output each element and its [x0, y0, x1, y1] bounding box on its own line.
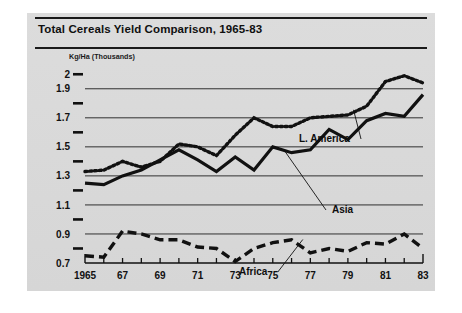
- title-rule-top: [35, 17, 427, 19]
- x-axis: [85, 254, 423, 263]
- y-axis-label-0.9: 0.9: [56, 229, 70, 240]
- y-axis-labels: 21.91.71.51.31.10.90.7: [56, 69, 70, 269]
- y-minor-ticks: [73, 74, 83, 248]
- y-axis-caption: Kg/Ha (Thousands): [69, 52, 135, 61]
- chart-panel: Total Cereals Yield Comparison, 1965-83 …: [27, 13, 435, 291]
- leader-asia: [284, 150, 326, 210]
- y-axis-label-1.9: 1.9: [56, 83, 70, 94]
- x-axis-label-81: 81: [380, 270, 392, 281]
- chart-svg: 21.91.71.51.31.10.90.7 19656769717375777…: [27, 49, 435, 291]
- plot-area: 21.91.71.51.31.10.90.7 19656769717375777…: [27, 49, 435, 291]
- x-axis-label-1965: 1965: [74, 270, 97, 281]
- annotation-asia: Asia: [332, 204, 354, 215]
- x-axis-label-69: 69: [155, 270, 167, 281]
- series-line-l-america: [85, 76, 423, 172]
- page-title: Total Cereals Yield Comparison, 1965-83: [38, 23, 262, 35]
- series-line-asia: [85, 95, 423, 185]
- x-axis-label-83: 83: [417, 270, 429, 281]
- x-axis-label-79: 79: [342, 270, 354, 281]
- chart-figure: Total Cereals Yield Comparison, 1965-83 …: [0, 0, 462, 313]
- title-block: Total Cereals Yield Comparison, 1965-83: [27, 13, 435, 49]
- x-axis-label-71: 71: [192, 270, 204, 281]
- y-axis-label-2: 2: [64, 69, 70, 80]
- annotation-africa: Africa: [239, 266, 268, 277]
- series-line-africa: [85, 231, 423, 261]
- gridlines: [85, 89, 423, 234]
- y-axis-label-0.7: 0.7: [56, 258, 70, 269]
- leader-africa: [278, 240, 303, 273]
- x-axis-label-77: 77: [305, 270, 317, 281]
- x-axis-label-75: 75: [267, 270, 279, 281]
- x-axis-label-67: 67: [117, 270, 129, 281]
- y-axis-label-1.3: 1.3: [56, 170, 70, 181]
- y-axis-label-1.1: 1.1: [56, 200, 70, 211]
- y-axis-label-1.7: 1.7: [56, 112, 70, 123]
- annotation-l-america: L. America: [299, 133, 350, 144]
- y-axis-label-1.5: 1.5: [56, 141, 70, 152]
